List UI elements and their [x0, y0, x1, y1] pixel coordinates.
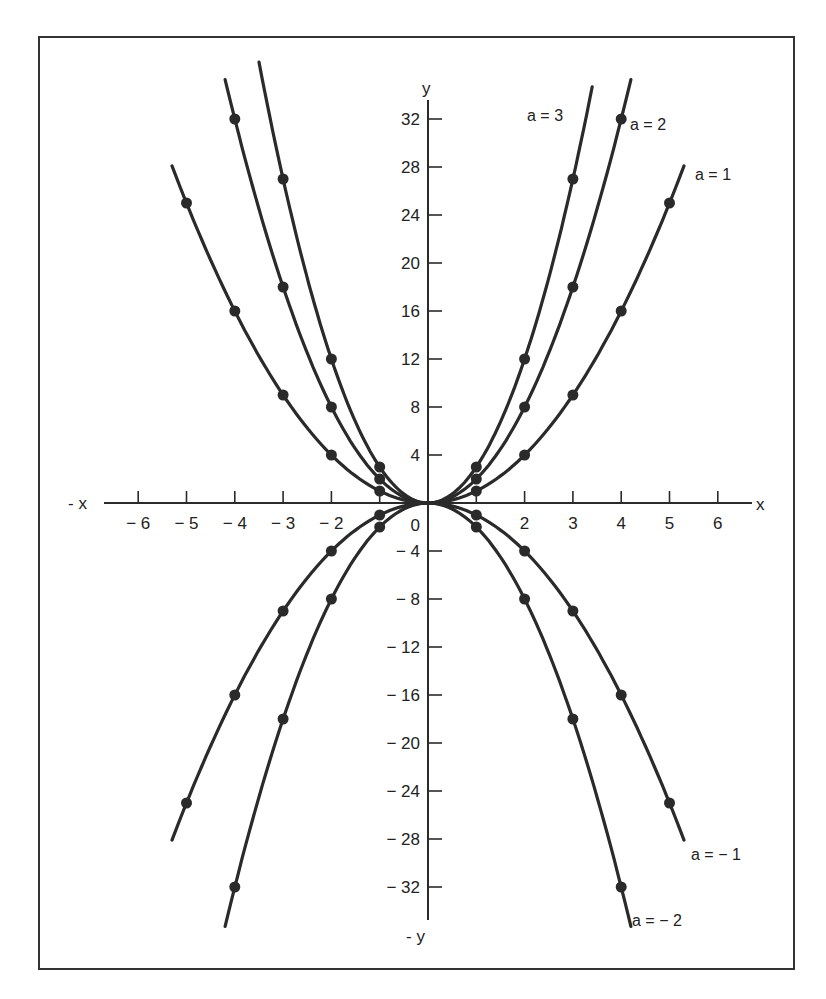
y-tick-label: 4 — [411, 446, 420, 465]
axes: - xxy- y− 6− 5− 4− 3− 223456322824201612… — [68, 79, 765, 946]
data-point — [374, 462, 385, 473]
y-tick-label: 28 — [401, 158, 420, 177]
data-point — [519, 402, 530, 413]
data-point — [374, 474, 385, 485]
label-am2: a = − 2 — [632, 912, 682, 929]
y-tick-label: 8 — [411, 398, 420, 417]
y-tick-label: − 16 — [386, 686, 420, 705]
x-axis-label: x — [756, 495, 765, 514]
data-point — [519, 450, 530, 461]
data-point — [374, 522, 385, 533]
y-tick-label: 20 — [401, 254, 420, 273]
origin-label: 0 — [411, 516, 420, 535]
data-point — [229, 306, 240, 317]
data-point — [326, 354, 337, 365]
data-point — [567, 390, 578, 401]
data-point — [229, 882, 240, 893]
parabola-chart: - xxy- y− 6− 5− 4− 3− 223456322824201612… — [0, 0, 826, 999]
data-point — [616, 306, 627, 317]
data-point — [326, 450, 337, 461]
y-tick-label: − 28 — [386, 830, 420, 849]
y-tick-label: − 24 — [386, 782, 420, 801]
data-point — [664, 798, 675, 809]
data-point — [278, 714, 289, 725]
x-tick-label: 2 — [520, 514, 529, 533]
label-a2: a = 2 — [630, 116, 666, 133]
y-tick-label: 24 — [401, 206, 420, 225]
data-point — [326, 546, 337, 557]
data-point — [278, 606, 289, 617]
data-point — [519, 546, 530, 557]
y-tick-label: − 4 — [396, 542, 420, 561]
data-point — [567, 714, 578, 725]
data-point — [567, 282, 578, 293]
data-point — [567, 606, 578, 617]
y-tick-label: 12 — [401, 350, 420, 369]
label-a1: a = 1 — [695, 166, 731, 183]
data-point — [181, 198, 192, 209]
data-point — [616, 114, 627, 125]
y-tick-label: − 12 — [386, 638, 420, 657]
y-tick-label: − 20 — [386, 734, 420, 753]
data-point — [278, 390, 289, 401]
data-point — [326, 594, 337, 605]
data-point — [471, 474, 482, 485]
label-a3: a = 3 — [527, 107, 563, 124]
x-tick-label: − 2 — [319, 514, 343, 533]
y-axis-label: y — [422, 79, 431, 98]
curve-labels: a = 3 a = 2 a = 1 a = − 1 a = − 2 — [527, 107, 741, 929]
y-tick-label: − 8 — [396, 590, 420, 609]
label-am1: a = − 1 — [691, 846, 741, 863]
x-tick-label: 5 — [665, 514, 674, 533]
data-point — [471, 486, 482, 497]
data-point — [519, 594, 530, 605]
x-tick-label: 3 — [568, 514, 577, 533]
x-tick-label: − 3 — [271, 514, 295, 533]
data-point — [616, 690, 627, 701]
x-tick-label: − 5 — [174, 514, 198, 533]
x-tick-label: − 4 — [223, 514, 247, 533]
data-point — [471, 522, 482, 533]
data-point — [229, 690, 240, 701]
data-point — [567, 174, 578, 185]
y-axis-neg-label: - y — [406, 927, 425, 946]
x-tick-label: − 6 — [126, 514, 150, 533]
data-point — [519, 354, 530, 365]
data-point — [374, 486, 385, 497]
data-point — [229, 114, 240, 125]
x-tick-label: 4 — [616, 514, 625, 533]
data-point — [664, 198, 675, 209]
data-point — [374, 510, 385, 521]
data-point — [471, 510, 482, 521]
data-point — [278, 174, 289, 185]
x-tick-label: 6 — [713, 514, 722, 533]
data-point — [471, 462, 482, 473]
data-point — [616, 882, 627, 893]
data-point — [181, 798, 192, 809]
data-point — [326, 402, 337, 413]
y-tick-label: 32 — [401, 110, 420, 129]
y-tick-label: − 32 — [386, 878, 420, 897]
data-point — [278, 282, 289, 293]
y-tick-label: 16 — [401, 302, 420, 321]
x-axis-neg-label: - x — [68, 494, 87, 513]
